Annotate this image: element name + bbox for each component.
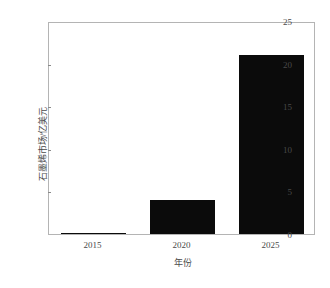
y-tick-label-25: 25	[262, 18, 292, 27]
bar-2015	[61, 233, 125, 234]
x-tick-label-2020: 2020	[173, 240, 191, 250]
y-tick-mark-5	[48, 192, 51, 193]
y-tick-mark-10	[48, 150, 51, 151]
y-axis-title: 石墨烯市场/亿美元	[38, 107, 48, 182]
x-axis-title: 年份	[174, 258, 192, 268]
y-tick-label-5: 5	[262, 188, 292, 197]
y-tick-label-20: 20	[262, 60, 292, 69]
y-tick-mark-15	[48, 107, 51, 108]
x-tick-label-2025: 2025	[262, 240, 280, 250]
y-tick-mark-20	[48, 65, 51, 66]
x-tick-label-2015: 2015	[84, 240, 102, 250]
bar-2020	[150, 200, 214, 234]
y-tick-label-10: 10	[262, 145, 292, 154]
plot-area	[48, 22, 315, 235]
y-tick-label-0: 0	[262, 231, 292, 240]
bar-chart-figure: 石墨烯市场/亿美元 年份 2520151050201520202025	[0, 0, 330, 288]
y-tick-label-15: 15	[262, 103, 292, 112]
